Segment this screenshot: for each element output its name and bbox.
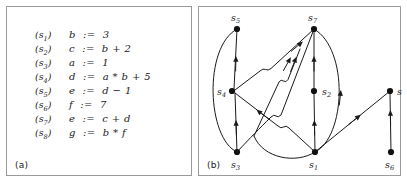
node-label-s2: s2: [322, 86, 331, 99]
statement-tag: (s7): [35, 113, 69, 127]
node-label-s4: s4: [217, 86, 226, 99]
list-item: (s7) e := c + d: [35, 113, 151, 127]
statement-text: d := a * b + 5: [69, 71, 151, 82]
panel-a-statements: (s1) b := 3 (s2) c := b + 2 (s3) a := 1 …: [6, 6, 192, 176]
node-label-s1: s1: [309, 159, 318, 172]
list-item: (s1) b := 3: [35, 29, 151, 43]
list-item: (s5) e := d − 1: [35, 85, 151, 99]
edge-s1-s5: [237, 29, 315, 158]
edge-s1-s2: [314, 93, 315, 152]
statement-list: (s1) b := 3 (s2) c := b + 2 (s3) a := 1 …: [35, 29, 151, 141]
statement-tag: (s1): [35, 29, 69, 43]
node-s8[interactable]: [387, 88, 393, 94]
graph-node-labels: s5 s7 s4 s2 s8 s3 s1 s6: [217, 12, 402, 172]
statement-text: f := 7: [69, 99, 107, 110]
list-item: (s2) c := b + 2: [35, 43, 151, 57]
statement-text: g := b * f: [69, 127, 126, 138]
node-s2[interactable]: [311, 88, 317, 94]
list-item: (s6) f := 7: [35, 99, 151, 113]
node-label-s5: s5: [231, 12, 240, 25]
node-label-s3: s3: [231, 159, 240, 172]
node-s5[interactable]: [234, 26, 240, 32]
statement-text: e := c + d: [69, 113, 131, 124]
edge-s1-s4: [235, 93, 315, 152]
list-item: (s8) g := b * f: [35, 127, 151, 141]
panel-b-graph: s5 s7 s4 s2 s8 s3 s1 s6 (b): [198, 6, 401, 176]
node-label-s8: s8: [397, 86, 402, 99]
statement-text: c := b + 2: [69, 43, 131, 54]
panel-b-caption: (b): [207, 160, 220, 170]
dependency-graph: s5 s7 s4 s2 s8 s3 s1 s6: [199, 7, 402, 177]
edge-s6-s8: [390, 93, 391, 152]
node-s3[interactable]: [234, 149, 240, 155]
list-item: (s3) a := 1: [35, 57, 151, 71]
node-s6[interactable]: [388, 149, 394, 155]
edge-s3-s4: [235, 93, 237, 152]
statement-tag: (s2): [35, 43, 69, 57]
figure-root: (s1) b := 3 (s2) c := b + 2 (s3) a := 1 …: [0, 0, 407, 184]
statement-tag: (s6): [35, 99, 69, 113]
statement-text: e := d − 1: [69, 85, 132, 96]
statement-tag: (s8): [35, 127, 69, 141]
statement-text: b := 3: [69, 29, 109, 40]
statement-text: a := 1: [69, 57, 109, 68]
node-s1[interactable]: [312, 149, 318, 155]
statement-tag: (s3): [35, 57, 69, 71]
panel-a-caption: (a): [15, 160, 28, 170]
statement-tag: (s5): [35, 85, 69, 99]
edge-s1-s8: [315, 91, 390, 152]
list-item: (s4) d := a * b + 5: [35, 71, 151, 85]
node-s7[interactable]: [311, 26, 317, 32]
edge-s4-s5: [234, 29, 237, 89]
node-s4[interactable]: [229, 88, 235, 94]
node-label-s7: s7: [308, 12, 318, 25]
node-label-s6: s6: [385, 159, 394, 172]
statement-tag: (s4): [35, 71, 69, 85]
